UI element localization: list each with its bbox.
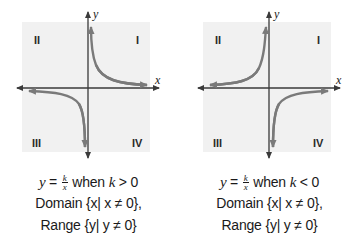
equation-caption: y = kx when k < 0 [181, 174, 354, 192]
grid-background [203, 22, 331, 152]
quadrant-label-III: III [213, 137, 222, 149]
domain-caption: Domain {x| x ≠ 0}, [0, 195, 177, 211]
hyperbola-graph-positive-k: y x II I III IV [0, 0, 177, 170]
condition-operator: > 0 [115, 174, 138, 190]
y-axis-label: y [92, 7, 99, 21]
domain-set: {x| x ≠ 0}, [86, 195, 142, 211]
graph-panel-positive-k: y x II I III IV y = kx when k > 0 Domain… [0, 0, 177, 238]
range-label: Range [40, 217, 84, 233]
range-caption: Range {y| y ≠ 0} [0, 217, 177, 233]
domain-label: Domain [216, 195, 267, 211]
hyperbola-graph-negative-k: y x II I III IV [181, 0, 354, 170]
graph-panel-negative-k: y x II I III IV y = kx when k < 0 Domain… [181, 0, 354, 238]
range-caption: Range {y| y ≠ 0} [181, 217, 354, 233]
y-axis-label: y [273, 7, 280, 21]
quadrant-label-I: I [136, 34, 139, 46]
quadrant-label-III: III [32, 137, 41, 149]
equals-sign: = [45, 174, 60, 190]
fraction-k-over-x: kx [62, 174, 68, 191]
fraction-denominator: x [243, 183, 249, 191]
equals-sign: = [226, 174, 241, 190]
x-axis-label: x [154, 73, 161, 87]
quadrant-label-IV: IV [132, 137, 143, 149]
quadrant-label-II: II [34, 34, 40, 46]
domain-caption: Domain {x| x ≠ 0}, [181, 195, 354, 211]
domain-label: Domain [35, 195, 86, 211]
fraction-denominator: x [62, 183, 68, 191]
x-axis-label: x [335, 73, 342, 87]
condition-operator: < 0 [296, 174, 319, 190]
domain-set: {x| x ≠ 0}, [267, 195, 323, 211]
range-set: {y| y ≠ 0} [265, 217, 317, 233]
range-set: {y| y ≠ 0} [84, 217, 136, 233]
grid-background [22, 22, 150, 152]
range-label: Range [221, 217, 265, 233]
condition-word: when [69, 174, 109, 190]
condition-word: when [250, 174, 290, 190]
fraction-k-over-x: kx [243, 174, 249, 191]
equation-caption: y = kx when k > 0 [0, 174, 177, 192]
quadrant-label-II: II [215, 34, 221, 46]
quadrant-label-IV: IV [313, 137, 324, 149]
quadrant-label-I: I [317, 34, 320, 46]
